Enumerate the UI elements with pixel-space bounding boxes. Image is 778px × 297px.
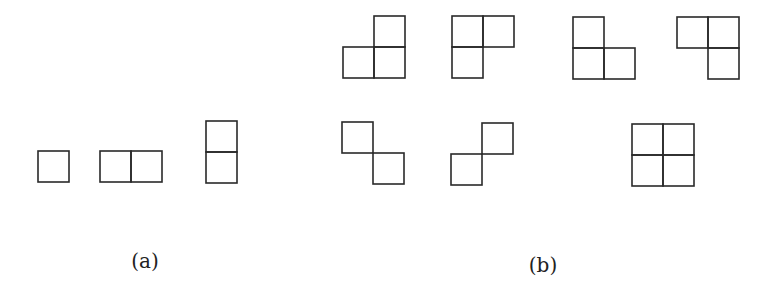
cell	[663, 155, 694, 186]
cell	[374, 47, 405, 78]
cell	[708, 48, 739, 79]
l-tromino-3	[573, 17, 635, 79]
l-tromino-1	[343, 16, 405, 78]
cell	[573, 48, 604, 79]
cell	[131, 151, 162, 182]
cell	[451, 154, 482, 185]
cell	[663, 124, 694, 155]
cell	[677, 17, 708, 48]
monomino	[38, 151, 69, 182]
cell	[604, 48, 635, 79]
cell	[38, 151, 69, 182]
diagonal-pair-2	[451, 123, 513, 185]
cell	[206, 121, 237, 152]
panel-a-label: (a)	[131, 249, 159, 273]
cell	[708, 17, 739, 48]
panel-b	[342, 16, 739, 186]
domino-vertical	[206, 121, 237, 183]
cell	[374, 16, 405, 47]
cell	[452, 47, 483, 78]
cell	[632, 124, 663, 155]
cell	[373, 153, 404, 184]
cell	[573, 17, 604, 48]
domino-horizontal	[100, 151, 162, 182]
cell	[632, 155, 663, 186]
cell	[483, 16, 514, 47]
cell	[342, 122, 373, 153]
cell	[482, 123, 513, 154]
panel-b-label: (b)	[529, 253, 557, 277]
l-tromino-4	[677, 17, 739, 79]
cell	[343, 47, 374, 78]
cell	[206, 152, 237, 183]
shapes-layer	[38, 16, 739, 186]
diagonal-pair-1	[342, 122, 404, 184]
polyomino-diagram: (a) (b)	[0, 0, 778, 297]
panel-a	[38, 121, 237, 183]
l-tromino-2	[452, 16, 514, 78]
cell	[452, 16, 483, 47]
cell	[100, 151, 131, 182]
square-tetromino	[632, 124, 694, 186]
